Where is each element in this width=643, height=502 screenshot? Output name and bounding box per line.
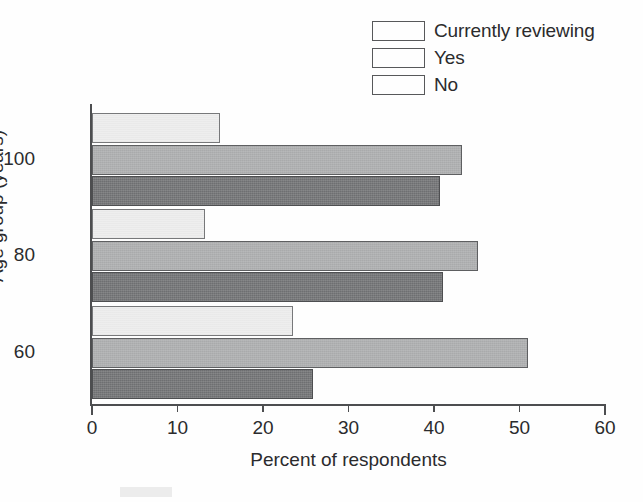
x-axis-tick [262,404,264,412]
x-axis-tick [433,404,435,412]
legend-label-currently-reviewing: Currently reviewing [434,21,595,41]
x-axis-tick-label: 60 [594,417,615,439]
bar [92,272,443,302]
legend-swatch-yes [372,48,425,68]
y-axis-group-label: 100 [3,148,35,170]
x-axis-tick-label: 30 [338,417,359,439]
x-axis-tick [91,404,93,415]
bar [92,338,528,368]
x-axis-tick-label: 0 [87,417,98,439]
y-axis-group-label: 80 [14,244,35,266]
legend-label-no: No [434,75,458,95]
legend-label-yes: Yes [434,48,465,68]
scan-artifact [120,487,172,497]
legend-swatch-no [372,75,425,95]
x-axis-tick-label: 40 [423,417,444,439]
bar [92,209,205,239]
bar [92,369,313,399]
x-axis-tick-label: 50 [509,417,530,439]
bar [92,176,440,206]
x-axis-tick [348,404,350,412]
bar-chart-figure: Currently reviewing Yes No Age group (ye… [0,0,643,502]
bar [92,145,462,175]
x-axis-tick [177,404,179,412]
bar [92,306,293,336]
legend-item-no: No [372,74,595,96]
y-axis-group-label: 60 [14,341,35,363]
x-axis-tick [604,404,606,415]
bar [92,113,220,143]
legend-swatch-currently-reviewing [372,21,425,41]
legend-item-yes: Yes [372,47,595,69]
legend-item-currently-reviewing: Currently reviewing [372,20,595,42]
x-axis-title: Percent of respondents [92,449,605,471]
x-axis-tick [519,404,521,412]
chart-legend: Currently reviewing Yes No [372,20,595,96]
plot-area: 0102030405060 Percent of respondents [92,104,605,404]
x-axis-tick-label: 10 [167,417,188,439]
bar [92,241,478,271]
x-axis-tick-label: 20 [252,417,273,439]
